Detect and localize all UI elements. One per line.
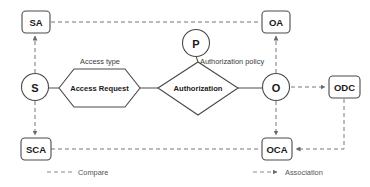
legend-association: Association [253, 168, 323, 177]
node-oa[interactable]: OA [262, 11, 290, 33]
node-oca-label: OCA [266, 144, 287, 155]
node-p[interactable]: P [183, 30, 210, 57]
edge-odc-oca [296, 99, 344, 149]
legend-compare: Compare [47, 168, 108, 177]
legend-compare-label: Compare [78, 168, 108, 177]
node-sca-label: SCA [26, 144, 46, 155]
node-sca[interactable]: SCA [21, 138, 51, 160]
label-access-type: Access type [80, 57, 120, 66]
node-odc[interactable]: ODC [329, 76, 360, 98]
relationship-access-request-label: Access Request [70, 84, 129, 93]
relationship-access-request[interactable]: Access Request [59, 69, 140, 107]
er-diagram-canvas: SA OA SCA OCA ODC S P O [0, 0, 370, 187]
label-authorization-policy: Authorization policy [200, 57, 264, 66]
node-sa[interactable]: SA [22, 11, 50, 33]
node-s[interactable]: S [22, 74, 49, 101]
node-odc-label: ODC [334, 82, 355, 93]
diagram-svg: SA OA SCA OCA ODC S P O [0, 0, 370, 187]
node-s-label: S [31, 82, 38, 94]
node-o[interactable]: O [263, 74, 290, 101]
node-oca[interactable]: OCA [262, 138, 292, 160]
node-oa-label: OA [269, 17, 283, 28]
legend-association-label: Association [285, 168, 323, 177]
relationship-authorization-label: Authorization [174, 84, 223, 93]
node-o-label: O [272, 82, 281, 94]
node-sa-label: SA [29, 17, 42, 28]
relationship-authorization[interactable]: Authorization [158, 62, 238, 115]
node-p-label: P [192, 38, 199, 50]
